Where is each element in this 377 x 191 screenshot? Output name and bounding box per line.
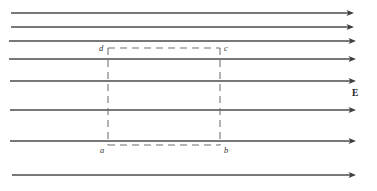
caption-partial-text xyxy=(0,184,377,191)
electric-field-diagram: abcd E xyxy=(0,0,377,191)
dashed-rectangle-path xyxy=(108,48,220,145)
vertex-label-c: c xyxy=(224,43,228,53)
field-lines-group xyxy=(9,10,356,178)
vertex-label-d: d xyxy=(99,43,104,53)
vertex-label-b: b xyxy=(224,145,228,155)
field-label-E: E xyxy=(352,88,358,98)
vertex-label-a: a xyxy=(100,145,104,155)
figure-container: abcd E xyxy=(0,0,377,191)
